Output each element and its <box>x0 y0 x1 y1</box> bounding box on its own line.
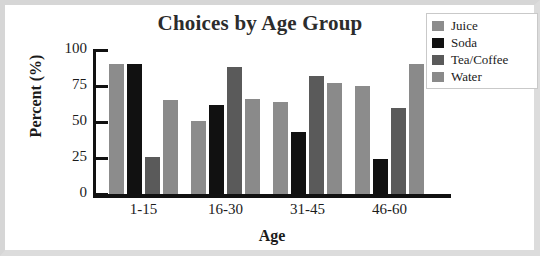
legend-item-label: Tea/Coffee <box>451 52 508 68</box>
x-axis-tick-label: 16-30 <box>186 201 266 218</box>
x-axis-tick-label: 31-45 <box>268 201 348 218</box>
y-axis-tick-label: 100 <box>41 40 87 57</box>
legend-swatch-icon <box>431 54 445 66</box>
legend-swatch-icon <box>431 20 445 32</box>
legend: JuiceSodaTea/CoffeeWater <box>426 13 538 89</box>
x-axis-tick-label: 1-15 <box>104 201 184 218</box>
legend-item-tea-coffee[interactable]: Tea/Coffee <box>431 51 533 68</box>
bar-tea-coffee-1-15 <box>145 157 160 194</box>
bar-water-1-15 <box>163 100 178 194</box>
figure-frame: Choices by Age Group Percent (%) 0255075… <box>0 0 540 256</box>
bar-water-31-45 <box>327 83 342 194</box>
legend-item-label: Juice <box>451 18 478 34</box>
legend-item-label: Soda <box>451 35 477 51</box>
bar-juice-16-30 <box>191 121 206 194</box>
legend-item-soda[interactable]: Soda <box>431 34 533 51</box>
bar-tea-coffee-46-60 <box>391 108 406 194</box>
bar-soda-46-60 <box>373 159 388 194</box>
x-axis-line <box>93 194 451 198</box>
bar-soda-16-30 <box>209 105 224 194</box>
y-axis-tick-label: 50 <box>41 112 87 129</box>
bar-soda-31-45 <box>291 132 306 194</box>
bar-juice-1-15 <box>109 64 124 194</box>
legend-swatch-icon <box>431 71 445 83</box>
legend-swatch-icon <box>431 37 445 49</box>
chart-title: Choices by Age Group <box>100 11 420 36</box>
bar-juice-46-60 <box>355 86 370 194</box>
bar-water-46-60 <box>409 64 424 194</box>
bar-tea-coffee-16-30 <box>227 67 242 194</box>
plot-area <box>95 50 450 194</box>
bar-juice-31-45 <box>273 102 288 194</box>
x-axis-tick-label: 46-60 <box>350 201 430 218</box>
x-axis-title: Age <box>93 227 451 245</box>
legend-item-juice[interactable]: Juice <box>431 17 533 34</box>
y-axis-tick-label: 25 <box>41 148 87 165</box>
y-axis-tick-label: 75 <box>41 76 87 93</box>
bar-water-16-30 <box>245 99 260 194</box>
chart-canvas: Choices by Age Group Percent (%) 0255075… <box>5 5 540 256</box>
bar-soda-1-15 <box>127 64 142 194</box>
legend-item-label: Water <box>451 69 482 85</box>
legend-item-water[interactable]: Water <box>431 68 533 85</box>
bar-tea-coffee-31-45 <box>309 76 324 194</box>
y-axis-tick-label: 0 <box>41 184 87 201</box>
